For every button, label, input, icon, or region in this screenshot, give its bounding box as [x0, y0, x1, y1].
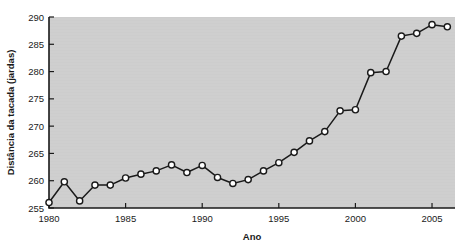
y-axis-title: Distância da tacada (jardas): [5, 50, 16, 176]
data-point-marker: [398, 33, 404, 39]
x-tick-label: 1980: [38, 213, 59, 224]
x-tick-label: 1985: [115, 213, 136, 224]
data-point-marker: [352, 107, 358, 113]
data-point-marker: [306, 138, 312, 144]
data-point-marker: [138, 171, 144, 177]
data-point-marker: [168, 162, 174, 168]
data-point-marker: [276, 160, 282, 166]
data-point-marker: [214, 174, 220, 180]
y-tick-label: 270: [28, 121, 44, 132]
data-point-marker: [322, 129, 328, 135]
data-point-marker: [245, 177, 251, 183]
chart-figure: 255260265270275280285290 198019851990199…: [0, 0, 462, 246]
data-point-marker: [337, 108, 343, 114]
y-tick-label: 265: [28, 148, 44, 159]
x-tick-label: 2005: [421, 213, 442, 224]
y-tick-label: 285: [28, 39, 44, 50]
data-point-marker: [260, 168, 266, 174]
x-tick-label: 2000: [345, 213, 366, 224]
data-point-marker: [61, 179, 67, 185]
y-tick-label: 260: [28, 175, 44, 186]
data-point-marker: [414, 30, 420, 36]
plot-area-background: [49, 17, 455, 208]
y-tick-label: 255: [28, 203, 44, 214]
data-point-marker: [444, 24, 450, 30]
data-point-marker: [123, 175, 129, 181]
x-axis-title: Ano: [243, 231, 262, 242]
data-point-marker: [368, 70, 374, 76]
x-tick-label: 1995: [268, 213, 289, 224]
data-point-marker: [429, 22, 435, 28]
data-point-marker: [77, 198, 83, 204]
data-point-marker: [92, 182, 98, 188]
data-point-marker: [199, 162, 205, 168]
data-point-marker: [153, 168, 159, 174]
data-point-marker: [107, 182, 113, 188]
data-point-marker: [383, 68, 389, 74]
y-tick-label: 290: [28, 12, 44, 23]
y-tick-label: 275: [28, 93, 44, 104]
chart-svg: 255260265270275280285290 198019851990199…: [0, 0, 462, 246]
data-point-marker: [184, 169, 190, 175]
y-tick-label: 280: [28, 66, 44, 77]
x-tick-label: 1990: [192, 213, 213, 224]
data-point-marker: [230, 180, 236, 186]
data-point-marker: [291, 149, 297, 155]
data-point-marker: [46, 199, 52, 205]
